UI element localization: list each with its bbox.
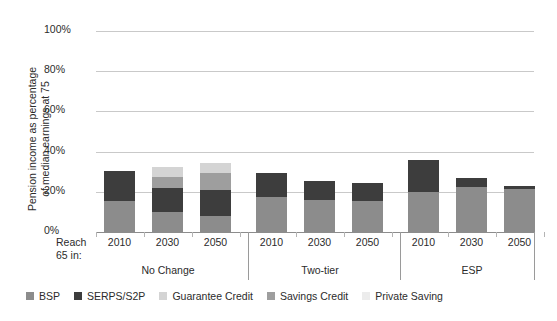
legend-swatch-icon xyxy=(362,292,370,300)
legend-label: Savings Credit xyxy=(280,290,348,302)
legend-item[interactable]: SERPS/S2P xyxy=(74,290,145,302)
gridline-40 xyxy=(96,152,534,153)
plot-area: 0%20%40%60%80%100% xyxy=(96,31,534,232)
legend-item[interactable]: Savings Credit xyxy=(267,290,348,302)
bar-esp-2010[interactable] xyxy=(408,160,439,232)
legend-item[interactable]: Guarantee Credit xyxy=(159,290,253,302)
x-axis-group-label: Two-tier xyxy=(260,264,380,276)
bar-segment-serps-s2p xyxy=(104,171,135,201)
x-axis-line xyxy=(96,232,534,233)
bar-segment-serps-s2p xyxy=(304,181,335,200)
y-axis-tick-label: 60% xyxy=(44,103,90,115)
axis-prefix-line-2: 65 in: xyxy=(56,249,82,261)
bar-segment-serps-s2p xyxy=(152,188,183,212)
bar-no-change-2030[interactable] xyxy=(152,167,183,232)
bar-segment-serps-s2p xyxy=(200,190,231,216)
y-axis-tick-label: 80% xyxy=(44,63,90,75)
x-axis-group-label: No Change xyxy=(108,264,228,276)
bar-segment-bsp xyxy=(152,212,183,232)
gridline-80 xyxy=(96,71,534,72)
bar-no-change-2050[interactable] xyxy=(200,163,231,232)
bar-segment-bsp xyxy=(504,189,535,232)
gridline-60 xyxy=(96,111,534,112)
bar-segment-bsp xyxy=(304,200,335,232)
bar-two-tier-2010[interactable] xyxy=(256,173,287,232)
y-axis-tick-label: 40% xyxy=(44,144,90,156)
y-axis-title-line-1: Pension income as percentage xyxy=(26,39,39,239)
y-axis-tick-label: 0% xyxy=(44,224,90,236)
bar-segment-savings-credit xyxy=(152,177,183,188)
bar-segment-bsp xyxy=(104,201,135,232)
axis-prefix-line-1: Reach xyxy=(56,236,86,248)
x-axis-category-label: 2010 xyxy=(249,236,295,248)
x-axis-group-label: ESP xyxy=(412,264,532,276)
x-axis-category-label: 2030 xyxy=(145,236,191,248)
chart-legend: BSPSERPS/S2PGuarantee CreditSavings Cred… xyxy=(26,290,457,302)
bar-esp-2030[interactable] xyxy=(456,178,487,232)
legend-label: BSP xyxy=(39,290,60,302)
x-axis-category-label: 2050 xyxy=(345,236,391,248)
y-axis-tick-label: 20% xyxy=(44,184,90,196)
legend-label: Private Saving xyxy=(375,290,443,302)
bar-segment-savings-credit xyxy=(200,173,231,190)
x-axis-category-label: 2050 xyxy=(497,236,543,248)
legend-label: Guarantee Credit xyxy=(172,290,253,302)
bar-segment-bsp xyxy=(256,197,287,232)
bar-segment-serps-s2p xyxy=(352,183,383,201)
x-axis-category-label: 2050 xyxy=(193,236,239,248)
gridline-100 xyxy=(96,31,534,32)
bar-esp-2050[interactable] xyxy=(504,186,535,232)
bar-segment-serps-s2p xyxy=(256,173,287,197)
legend-label: SERPS/S2P xyxy=(87,290,145,302)
legend-swatch-icon xyxy=(26,292,34,300)
x-axis-tick xyxy=(544,232,545,237)
bar-segment-bsp xyxy=(456,187,487,232)
legend-item[interactable]: Private Saving xyxy=(362,290,443,302)
x-axis-tick xyxy=(240,232,241,237)
x-axis-category-label: 2010 xyxy=(401,236,447,248)
chart-container: Pension income as percentage of median e… xyxy=(0,0,557,321)
legend-swatch-icon xyxy=(74,292,82,300)
bar-segment-serps-s2p xyxy=(456,178,487,187)
y-axis-tick-label: 100% xyxy=(44,23,90,35)
bar-two-tier-2050[interactable] xyxy=(352,183,383,232)
bar-segment-bsp xyxy=(200,216,231,232)
legend-swatch-icon xyxy=(159,292,167,300)
bar-two-tier-2030[interactable] xyxy=(304,181,335,232)
legend-item[interactable]: BSP xyxy=(26,290,60,302)
bar-segment-bsp xyxy=(352,201,383,232)
bar-segment-bsp xyxy=(408,192,439,232)
x-axis-category-label: 2030 xyxy=(297,236,343,248)
bar-segment-guarantee-credit xyxy=(152,167,183,177)
x-axis-tick xyxy=(392,232,393,237)
x-axis-category-label: 2010 xyxy=(97,236,143,248)
bar-segment-guarantee-credit xyxy=(200,163,231,173)
axis-prefix-label: Reach 65 in: xyxy=(56,236,98,262)
bar-no-change-2010[interactable] xyxy=(104,171,135,232)
bar-segment-serps-s2p xyxy=(408,160,439,192)
legend-swatch-icon xyxy=(267,292,275,300)
x-axis-category-label: 2030 xyxy=(449,236,495,248)
